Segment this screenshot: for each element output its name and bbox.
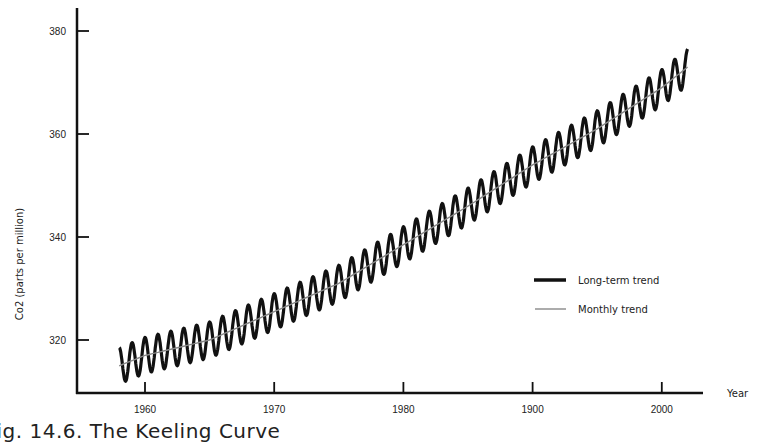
y-axis-title: Co2 (parts per million) bbox=[14, 208, 25, 321]
x-tick-label: 1900 bbox=[521, 404, 544, 415]
y-tick-label: 320 bbox=[49, 335, 66, 346]
x-tick-label: 1960 bbox=[134, 404, 157, 415]
y-tick-label: 380 bbox=[49, 26, 66, 37]
y-tick-label: 340 bbox=[49, 232, 66, 243]
x-tick-label: 1970 bbox=[263, 404, 286, 415]
legend-label-monthly: Monthly trend bbox=[578, 304, 648, 315]
long-term-trend-line bbox=[119, 49, 687, 381]
x-tick-label: 1980 bbox=[392, 404, 415, 415]
y-ticks: 320340360380 bbox=[49, 26, 89, 346]
y-tick-label: 360 bbox=[49, 129, 66, 140]
monthly-trend-line bbox=[119, 67, 687, 366]
legend: Long-term trend Monthly trend bbox=[534, 275, 659, 315]
figure-caption: Fig. 14.6. The Keeling Curve bbox=[0, 419, 280, 443]
x-axis-title: Year bbox=[726, 388, 749, 399]
x-ticks: 19601970198019002000 bbox=[134, 382, 673, 415]
x-tick-label: 2000 bbox=[651, 404, 674, 415]
legend-label-long-term: Long-term trend bbox=[578, 275, 659, 286]
